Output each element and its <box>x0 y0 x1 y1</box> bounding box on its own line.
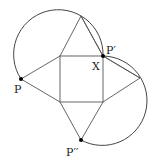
pprime-to-right-apex-line <box>103 56 140 78</box>
apex-to-pprime-line <box>81 16 103 56</box>
top-triangle <box>60 16 103 56</box>
label-P-double-prime: P′′ <box>66 146 79 159</box>
upper-arc <box>14 10 103 79</box>
label-P-prime: P′ <box>106 44 116 57</box>
lower-arc <box>81 56 147 145</box>
point-P <box>19 77 23 81</box>
left-triangle <box>21 56 60 102</box>
label-X: X <box>92 60 100 73</box>
point-P-prime <box>101 54 105 58</box>
label-P: P <box>14 83 22 96</box>
bottom-triangle <box>60 102 103 140</box>
right-triangle <box>103 56 140 102</box>
geometry-diagram: P P′ X P′′ <box>0 0 154 165</box>
point-P-double-prime <box>79 138 83 142</box>
